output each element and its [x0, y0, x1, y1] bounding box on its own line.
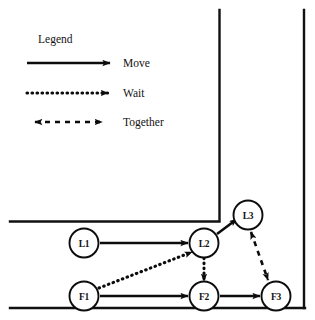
edges	[99, 219, 268, 296]
node-f2[interactable]: F2	[190, 282, 219, 311]
node-l1[interactable]: L1	[70, 229, 99, 258]
edge-f1-l2-wait	[99, 252, 192, 288]
node-f1-label: F1	[79, 292, 90, 302]
legend-wait: Wait	[27, 87, 145, 99]
legend-together-label: Together	[123, 116, 164, 129]
legend-title: Legend	[38, 33, 73, 46]
legend-together: Together	[35, 116, 164, 129]
legend-move-label: Move	[123, 57, 150, 69]
node-l1-label: L1	[79, 239, 90, 249]
legend: Legend Move Wait Together	[27, 33, 164, 129]
node-f3-label: F3	[271, 292, 282, 302]
node-f1[interactable]: F1	[70, 282, 99, 311]
node-l2-label: L2	[199, 239, 210, 249]
node-f2-label: F2	[199, 292, 210, 302]
legend-move: Move	[27, 57, 150, 69]
node-l3-label: L3	[243, 211, 254, 221]
edge-l3-f3-together	[251, 232, 268, 280]
node-l3[interactable]: L3	[234, 201, 263, 230]
environment-diagram: Legend Move Wait Together	[0, 0, 315, 320]
node-f3[interactable]: F3	[262, 282, 291, 311]
node-l2[interactable]: L2	[190, 229, 219, 258]
legend-wait-label: Wait	[123, 87, 145, 99]
nodes: L1 L2 L3 F1 F2 F3	[70, 201, 291, 311]
